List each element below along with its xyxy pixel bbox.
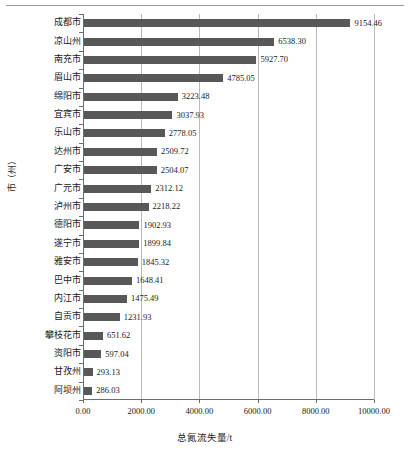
bar bbox=[84, 258, 138, 266]
bar-row: 攀枝花市651.62 bbox=[83, 326, 374, 344]
bar-row: 广安市2504.07 bbox=[83, 161, 374, 179]
bar-value-label: 2509.72 bbox=[161, 146, 189, 156]
bar-value-label: 1231.93 bbox=[124, 312, 152, 322]
y-axis-tick bbox=[79, 69, 83, 70]
bar-value-label: 1899.84 bbox=[143, 238, 171, 248]
bar-row: 雅安市1845.32 bbox=[83, 253, 374, 271]
bar bbox=[84, 240, 139, 248]
y-axis-category-label: 南充市 bbox=[54, 54, 81, 65]
x-axis-tick-label: 0.00 bbox=[76, 406, 91, 416]
bar bbox=[84, 277, 132, 285]
bar-row: 达州市2509.72 bbox=[83, 143, 374, 161]
y-axis-category-label: 广安市 bbox=[54, 164, 81, 175]
bar-row: 眉山市4785.05 bbox=[83, 69, 374, 87]
bar bbox=[84, 19, 350, 27]
y-axis-category-label: 自贡市 bbox=[54, 311, 81, 322]
y-axis-category-label: 达州市 bbox=[54, 146, 81, 157]
bar-row: 德阳市1902.93 bbox=[83, 216, 374, 234]
top-divider-rule bbox=[6, 5, 404, 6]
bar-value-label: 2778.05 bbox=[169, 128, 197, 138]
x-axis-tick-label: 6000.00 bbox=[244, 406, 272, 416]
bar bbox=[84, 221, 139, 229]
plot-area-wrapper: 成都市9154.46凉山州6538.30南充市5927.70眉山市4785.05… bbox=[83, 14, 374, 400]
y-axis-tick bbox=[79, 124, 83, 125]
y-axis-tick bbox=[79, 345, 83, 346]
bar bbox=[84, 387, 92, 395]
y-axis-tick bbox=[79, 308, 83, 309]
y-axis-tick bbox=[79, 216, 83, 217]
y-axis-category-label: 成都市 bbox=[54, 17, 81, 28]
y-axis-tick bbox=[79, 161, 83, 162]
y-axis-category-label: 眉山市 bbox=[54, 72, 81, 83]
x-axis-tick-label: 4000.00 bbox=[186, 406, 214, 416]
y-axis-tick bbox=[79, 14, 83, 15]
x-axis-tick-label: 2000.00 bbox=[127, 406, 155, 416]
bar-row: 内江市1475.49 bbox=[83, 290, 374, 308]
plot-area: 成都市9154.46凉山州6538.30南充市5927.70眉山市4785.05… bbox=[83, 14, 374, 400]
y-axis-category-label: 宜宾市 bbox=[54, 109, 81, 120]
y-axis-tick bbox=[79, 271, 83, 272]
y-axis-category-label: 内江市 bbox=[54, 293, 81, 304]
y-axis-category-label: 凉山州 bbox=[54, 36, 81, 47]
bar-row: 凉山州6538.30 bbox=[83, 32, 374, 50]
y-axis-category-label: 甘孜州 bbox=[54, 366, 81, 377]
y-axis-tick bbox=[79, 198, 83, 199]
y-axis-category-label: 德阳市 bbox=[54, 219, 81, 230]
bar-row: 资阳市597.04 bbox=[83, 345, 374, 363]
bar-value-label: 3223.48 bbox=[182, 91, 210, 101]
x-axis-tick bbox=[83, 400, 84, 403]
bar-value-label: 9154.46 bbox=[354, 18, 382, 28]
y-axis-category-label: 绵阳市 bbox=[54, 91, 81, 102]
bar-value-label: 5927.70 bbox=[260, 54, 288, 64]
y-axis-category-label: 广元市 bbox=[54, 183, 81, 194]
bar bbox=[84, 185, 151, 193]
y-axis-tick bbox=[79, 88, 83, 89]
bar-value-label: 651.62 bbox=[107, 330, 130, 340]
bar bbox=[84, 368, 93, 376]
bar-value-label: 3037.93 bbox=[176, 110, 204, 120]
bar-value-label: 2218.22 bbox=[153, 201, 181, 211]
x-axis-tick bbox=[258, 400, 259, 403]
bar-row: 阿坝州286.03 bbox=[83, 382, 374, 400]
bar-row: 成都市9154.46 bbox=[83, 14, 374, 32]
bar-row: 南充市5927.70 bbox=[83, 51, 374, 69]
bar-value-label: 1648.41 bbox=[136, 275, 164, 285]
y-axis-tick bbox=[79, 382, 83, 383]
y-axis-tick bbox=[79, 179, 83, 180]
y-axis-tick bbox=[79, 235, 83, 236]
bar bbox=[84, 203, 149, 211]
x-axis-tick bbox=[374, 400, 375, 403]
y-axis-category-label: 阿坝州 bbox=[54, 385, 81, 396]
bar-row: 广元市2312.12 bbox=[83, 179, 374, 197]
y-axis-category-label: 攀枝花市 bbox=[45, 330, 81, 341]
bar bbox=[84, 313, 120, 321]
bar-row: 乐山市2778.05 bbox=[83, 124, 374, 142]
bar-row: 宜宾市3037.93 bbox=[83, 106, 374, 124]
y-axis-category-label: 雅安市 bbox=[54, 256, 81, 267]
bar-row: 巴中市1648.41 bbox=[83, 271, 374, 289]
bar-row: 甘孜州293.13 bbox=[83, 363, 374, 381]
bar bbox=[84, 38, 274, 46]
bar-value-label: 286.03 bbox=[96, 385, 119, 395]
y-axis-tick bbox=[79, 106, 83, 107]
x-axis-title: 总氮流失量/t bbox=[0, 430, 409, 444]
bar-row: 绵阳市3223.48 bbox=[83, 88, 374, 106]
x-axis-tick-label: 8000.00 bbox=[302, 406, 330, 416]
bar bbox=[84, 93, 178, 101]
bar-row: 遂宁市1899.84 bbox=[83, 235, 374, 253]
y-axis-category-label: 巴中市 bbox=[54, 275, 81, 286]
bar-value-label: 2312.12 bbox=[155, 183, 183, 193]
bar-value-label: 597.04 bbox=[105, 349, 128, 359]
bar bbox=[84, 129, 165, 137]
bar-value-label: 1845.32 bbox=[142, 257, 170, 267]
y-axis-tick bbox=[79, 326, 83, 327]
bar bbox=[84, 295, 127, 303]
y-axis-title: 市（州） bbox=[7, 148, 18, 200]
bar-rows: 成都市9154.46凉山州6538.30南充市5927.70眉山市4785.05… bbox=[83, 14, 374, 400]
y-axis-category-label: 泸州市 bbox=[54, 201, 81, 212]
gridline bbox=[374, 14, 375, 400]
bar bbox=[84, 350, 101, 358]
bar-value-label: 2504.07 bbox=[161, 165, 189, 175]
y-axis-tick bbox=[79, 32, 83, 33]
bar bbox=[84, 74, 223, 82]
